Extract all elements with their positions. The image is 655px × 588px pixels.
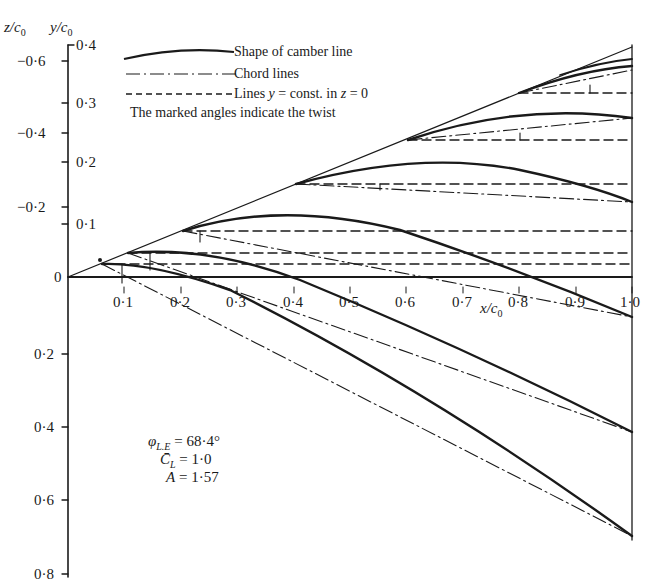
z-axis-label: z/c0 bbox=[4, 20, 26, 38]
z-tick-neg-0-4: −0·4 bbox=[17, 126, 45, 141]
x-tick-0-9: 0·9 bbox=[565, 295, 585, 310]
x-tick-0-1: 0·1 bbox=[113, 295, 133, 310]
x-tick-0-4: 0·4 bbox=[283, 295, 303, 310]
x-tick-0-3: 0·3 bbox=[226, 295, 246, 310]
y-axis-label: y/c0 bbox=[50, 20, 72, 38]
legend-swatches bbox=[120, 40, 240, 100]
z-tick-0-2: 0·2 bbox=[34, 347, 54, 362]
z-tick-0-8: 0·8 bbox=[34, 567, 54, 582]
x-tick-0-7: 0·7 bbox=[452, 295, 472, 310]
legend-camber-swatch bbox=[124, 50, 234, 59]
x-tick-0-2: 0·2 bbox=[170, 295, 190, 310]
z-tick-neg-0-2: −0·2 bbox=[17, 200, 45, 215]
x-tick-0-8: 0·8 bbox=[508, 295, 528, 310]
legend-note: The marked angles indicate the twist bbox=[130, 106, 336, 120]
param-sweep-angle: φL.E = 68·4° bbox=[148, 434, 220, 452]
param-aspect-ratio: A = 1·57 bbox=[166, 470, 219, 485]
z-tick-0-6: 0·6 bbox=[34, 493, 54, 508]
x-tick-0-5: 0·5 bbox=[339, 295, 359, 310]
legend-yconst-label: Lines y = const. in z = 0 bbox=[234, 87, 368, 101]
zero-label: 0 bbox=[54, 270, 62, 285]
z-tick-neg-0-6: −0·6 bbox=[17, 54, 45, 69]
y-tick-0-2: 0·2 bbox=[76, 155, 96, 170]
param-lift-coefficient: C̄L = 1·0 bbox=[160, 452, 212, 470]
legend-chord-label: Chord lines bbox=[234, 67, 299, 81]
y-tick-0-3: 0·3 bbox=[76, 96, 96, 111]
y-tick-0-1: 0·1 bbox=[76, 217, 96, 232]
x-tick-1-0: 1·0 bbox=[620, 295, 640, 310]
y-tick-0-4: 0·4 bbox=[76, 38, 96, 53]
x-axis-label: x/c0 bbox=[480, 301, 502, 319]
z-tick-0-4: 0·4 bbox=[34, 420, 54, 435]
x-tick-0-6: 0·6 bbox=[395, 295, 415, 310]
legend-camber-label: Shape of camber line bbox=[234, 45, 353, 59]
